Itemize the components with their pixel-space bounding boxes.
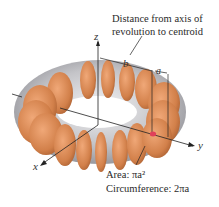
minor-radius-label: a xyxy=(156,65,161,76)
circumference-label: Circumference: 2πa xyxy=(106,183,189,195)
y-axis-arrow-icon xyxy=(188,142,195,147)
major-radius-label: b xyxy=(123,57,129,69)
leader-line-top xyxy=(130,36,142,55)
area-label: Area: πa² xyxy=(106,169,145,181)
annotation-top-line2: revolution to centroid xyxy=(112,26,203,38)
annotation-top-line1: Distance from axis of xyxy=(112,13,203,25)
centroid-marker xyxy=(150,132,156,137)
z-axis-label: z xyxy=(94,30,98,42)
y-axis-label: y xyxy=(198,139,203,151)
x-axis-label: x xyxy=(33,160,38,172)
